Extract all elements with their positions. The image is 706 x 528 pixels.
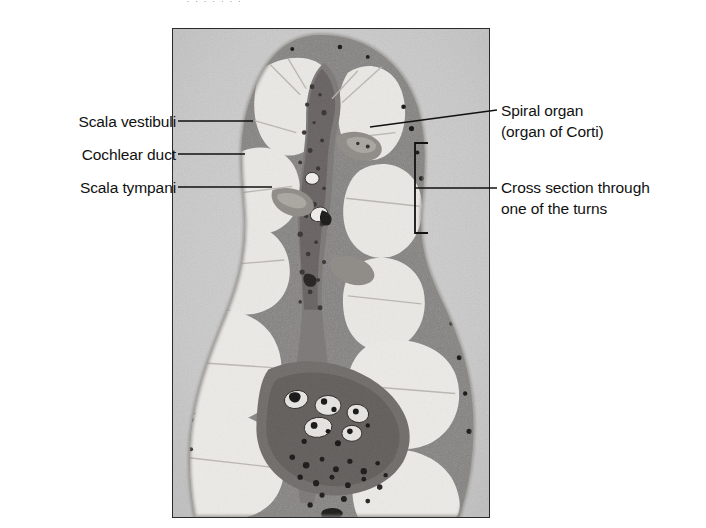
label-spiral-organ-line1: Spiral organ (501, 100, 604, 121)
label-scala-tympani: Scala tympani (0, 177, 176, 198)
label-cross-section: Cross section through one of the turns (501, 177, 650, 219)
cropped-top-text-remnant: · · · · · · · (186, 0, 686, 2)
label-spiral-organ: Spiral organ (organ of Corti) (501, 100, 604, 142)
label-spiral-organ-line2: (organ of Corti) (501, 121, 604, 142)
cochlea-histology-image (173, 29, 489, 517)
figure-root: · · · · · · · (0, 0, 706, 528)
label-scala-vestibuli: Scala vestibuli (0, 111, 176, 132)
label-cross-section-line1: Cross section through (501, 177, 650, 198)
label-cross-section-line2: one of the turns (501, 198, 650, 219)
label-cochlear-duct: Cochlear duct (0, 144, 176, 165)
cochlea-micrograph-panel (172, 28, 490, 518)
